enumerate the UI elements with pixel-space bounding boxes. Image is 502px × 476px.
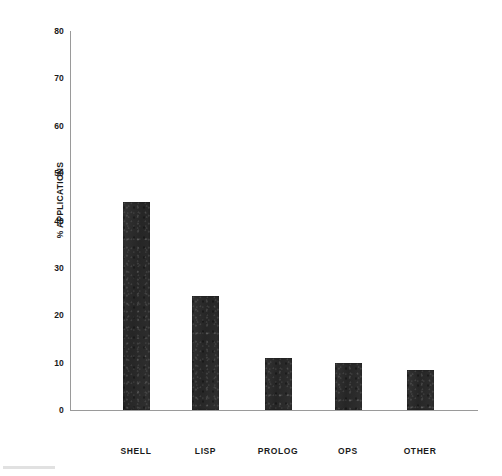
- y-axis-tick-label: 20: [38, 310, 64, 320]
- y-axis-tick-label: 10: [38, 358, 64, 368]
- y-axis-tick-labels: 80706050403020100: [36, 0, 64, 476]
- bar-prolog: [265, 358, 292, 410]
- y-axis-tick-label: 0: [38, 405, 64, 415]
- bar-shell: [123, 202, 150, 410]
- bar-other: [407, 370, 434, 410]
- y-axis-tick-label: 50: [38, 168, 64, 178]
- x-axis-label-other: OTHER: [375, 446, 465, 456]
- y-axis-tick-label: 30: [38, 263, 64, 273]
- bar-ops: [335, 363, 362, 410]
- y-axis-tick-label: 60: [38, 121, 64, 131]
- x-axis-line: [70, 410, 478, 411]
- y-axis-tick-label: 40: [38, 216, 64, 226]
- y-axis-tick-label: 70: [38, 73, 64, 83]
- plot-area: [70, 31, 478, 410]
- bar-lisp: [192, 296, 219, 410]
- scan-artifact: [3, 466, 55, 469]
- y-axis-tick-label: 80: [38, 26, 64, 36]
- bar-chart-figure: % APPLICATIONS 80706050403020100 SHELLLI…: [0, 0, 502, 476]
